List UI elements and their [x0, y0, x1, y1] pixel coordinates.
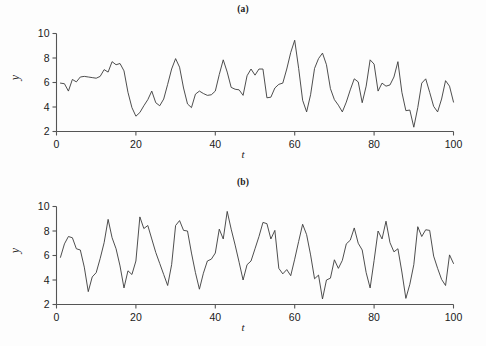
panel-a-y-tick-label: 2: [44, 125, 50, 137]
panel-a-x-tick-label: 60: [289, 138, 301, 150]
panel-a-y-tick-label: 6: [44, 76, 50, 88]
panel-a-x-tick-label: 80: [368, 138, 380, 150]
panel-a-x-tick-label: 100: [445, 138, 463, 150]
panel-a-data-line: [60, 40, 453, 127]
panel-a: (a) y t 246810020406080100: [0, 0, 486, 173]
panel-b-x-tick-label: 80: [368, 311, 380, 323]
panel-b-y-tick-label: 4: [44, 274, 50, 286]
panel-a-x-tick-label: 40: [209, 138, 221, 150]
panel-b-data-line: [60, 211, 453, 299]
panel-a-x-tick-label: 20: [130, 138, 142, 150]
panel-b-x-tick-label: 60: [289, 311, 301, 323]
panel-b-y-tick-label: 6: [44, 249, 50, 261]
figure-container: (a) y t 246810020406080100 (b) y t 24681…: [0, 0, 486, 346]
panel-b: (b) y t 246810020406080100: [0, 173, 486, 346]
panel-a-y-tick-label: 8: [44, 52, 50, 64]
panel-a-y-tick-label: 4: [44, 101, 50, 113]
panel-b-y-tick-label: 10: [38, 200, 50, 212]
panel-a-plot-area: 246810020406080100: [0, 0, 486, 173]
panel-b-y-tick-label: 2: [44, 298, 50, 310]
panel-b-x-tick-label: 40: [209, 311, 221, 323]
panel-b-x-tick-label: 0: [54, 311, 60, 323]
panel-b-x-tick-label: 20: [130, 311, 142, 323]
panel-b-plot-area: 246810020406080100: [0, 173, 486, 346]
panel-b-svg: 246810020406080100: [0, 173, 486, 346]
panel-b-x-tick-label: 100: [445, 311, 463, 323]
panel-a-x-tick-label: 0: [54, 138, 60, 150]
panel-a-svg: 246810020406080100: [0, 0, 486, 173]
panel-a-y-tick-label: 10: [38, 27, 50, 39]
panel-b-y-tick-label: 8: [44, 225, 50, 237]
